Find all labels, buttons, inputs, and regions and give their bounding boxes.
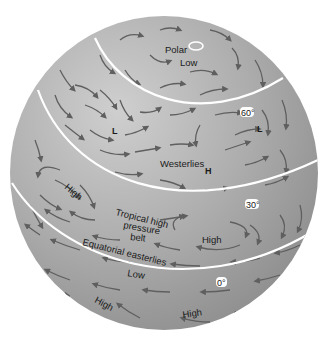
latitude-label-30: 30° bbox=[246, 200, 260, 210]
latitude-label-0: 0° bbox=[217, 278, 226, 288]
globe-circulation-diagram: 60° 30° 0° Polar Low L L Westerlies H Hi… bbox=[0, 0, 329, 342]
label-high-right: High bbox=[202, 234, 222, 245]
label-polar-low: Low bbox=[180, 57, 198, 68]
low-symbol-right: L bbox=[257, 124, 263, 134]
high-symbol: H bbox=[205, 166, 212, 176]
globe bbox=[10, 16, 318, 330]
latitude-label-60: 60° bbox=[241, 108, 255, 118]
label-tropical-line3: belt bbox=[130, 231, 147, 244]
low-symbol-left: L bbox=[112, 126, 118, 136]
label-westerlies: Westerlies bbox=[160, 158, 204, 169]
label-polar: Polar bbox=[165, 44, 187, 55]
